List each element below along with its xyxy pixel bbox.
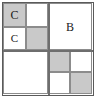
cell-bottom-right-sw — [48, 72, 70, 94]
cell-bottom-left — [3, 50, 48, 94]
cell-bottom-right-se — [70, 72, 92, 94]
cell-top-left-sw: C — [3, 27, 26, 51]
quadrant-divider-vertical — [48, 3, 50, 95]
quadrant-divider-horizontal — [3, 50, 93, 52]
cell-label-top-right: B — [66, 21, 74, 33]
quadtree-figure: C C B — [0, 0, 97, 99]
cell-top-right: B — [48, 3, 92, 50]
outer-square-border: C C B — [2, 2, 94, 96]
cell-top-left-ne — [26, 3, 48, 27]
cell-label-top-left-sw: C — [11, 33, 18, 44]
cell-label-top-left-nw: C — [10, 9, 18, 21]
cell-bottom-right-nw — [48, 50, 70, 72]
cell-top-left-se — [26, 27, 48, 51]
cell-top-left-nw: C — [3, 3, 26, 27]
cell-bottom-right-ne — [70, 50, 92, 72]
